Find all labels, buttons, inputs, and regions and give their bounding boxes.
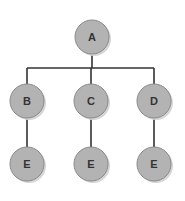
node-e-middle: E	[74, 147, 110, 183]
node-d: D	[137, 84, 173, 120]
tree-diagram: A B C D E E E	[0, 0, 185, 201]
node-e-left-label: E	[23, 158, 30, 170]
node-e-right: E	[137, 147, 173, 183]
node-c: C	[74, 84, 110, 120]
node-c-label: C	[87, 95, 95, 107]
node-b-label: B	[23, 95, 31, 107]
node-a-label: A	[88, 31, 96, 43]
node-e-middle-label: E	[87, 158, 94, 170]
node-e-right-label: E	[150, 158, 157, 170]
node-d-label: D	[150, 95, 158, 107]
node-e-left: E	[10, 147, 46, 183]
node-b: B	[10, 84, 46, 120]
node-a: A	[75, 20, 111, 56]
